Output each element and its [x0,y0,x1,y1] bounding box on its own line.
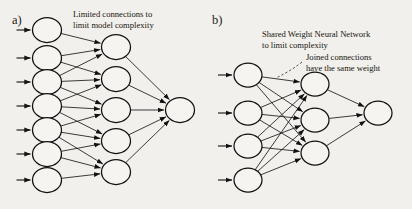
input-node [33,142,62,167]
hidden-node [102,160,131,185]
neural-network-diagram: a) Limited connections to limit model co… [0,0,412,209]
output-node [166,98,195,123]
input-node [234,134,262,158]
figure-container: a) Limited connections to limit model co… [0,0,412,209]
input-node [33,18,62,43]
panel-b-label: b) [212,13,222,27]
input-node [33,168,62,193]
panel-b-annotation-joined-line1: Joined connections [306,52,372,62]
panel-b-annotation-shared-line2: to limit complexity [262,40,329,50]
input-node [234,168,262,192]
hidden-node [102,35,131,60]
panel-b-annotation-joined-line2: have the same weight [306,63,381,73]
input-node [33,70,62,95]
hidden-node [102,67,131,92]
input-node [234,63,262,87]
hidden-node [102,129,131,154]
hidden-node [301,141,329,165]
panel-b-annotation-joined-connections: Joined connections have the same weight [306,52,381,73]
hidden-node [301,72,329,96]
hidden-node [301,108,329,132]
panel-b-annotation-shared-line1: Shared Weight Neural Network [262,29,371,39]
panel-a-annotation-line1: Limited connections to [73,9,152,19]
input-node [33,46,62,71]
output-node [364,101,392,125]
input-node [33,118,62,143]
input-node [33,94,62,119]
input-node [234,101,262,125]
panel-a-annotation-line2: limit model complexity [73,20,154,30]
panel-a-annotation-limited-connections: Limited connections to limit model compl… [73,9,154,30]
panel-a-label: a) [12,13,22,27]
hidden-node [102,98,131,123]
